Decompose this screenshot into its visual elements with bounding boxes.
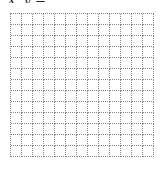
grid-cell bbox=[132, 69, 143, 80]
grid-cell bbox=[66, 102, 77, 113]
grid-cell bbox=[99, 146, 110, 157]
grid-cell bbox=[88, 91, 99, 102]
grid-cell bbox=[88, 36, 99, 47]
grid-cell bbox=[11, 47, 22, 58]
grid-cell bbox=[66, 58, 77, 69]
grid-cell bbox=[132, 80, 143, 91]
grid-cell bbox=[33, 58, 44, 69]
grid-cell bbox=[110, 113, 121, 124]
grid-cell bbox=[77, 124, 88, 135]
grid-cell bbox=[143, 69, 154, 80]
grid-cell bbox=[143, 25, 154, 36]
grid-cell bbox=[33, 14, 44, 25]
grid-cell bbox=[110, 135, 121, 146]
grid-cell bbox=[121, 69, 132, 80]
grid-cell bbox=[121, 14, 132, 25]
grid-cell bbox=[55, 47, 66, 58]
grid-cell bbox=[99, 47, 110, 58]
grid-cell bbox=[77, 36, 88, 47]
grid-cell bbox=[11, 146, 22, 157]
grid-cell bbox=[132, 146, 143, 157]
grid-cell bbox=[55, 80, 66, 91]
grid-cell bbox=[44, 146, 55, 157]
grid-cell bbox=[88, 113, 99, 124]
grid-cell bbox=[110, 91, 121, 102]
grid-cell bbox=[33, 102, 44, 113]
grid-cell bbox=[110, 58, 121, 69]
grid-cell bbox=[143, 14, 154, 25]
grid-cell bbox=[22, 113, 33, 124]
grid-cell bbox=[88, 69, 99, 80]
grid-cell bbox=[143, 47, 154, 58]
grid-cell bbox=[55, 58, 66, 69]
grid-cell bbox=[33, 91, 44, 102]
grid-cell bbox=[33, 36, 44, 47]
grid-cell bbox=[88, 47, 99, 58]
grid-cell bbox=[33, 124, 44, 135]
grid-cell bbox=[55, 25, 66, 36]
grid-cell bbox=[66, 124, 77, 135]
grid-cell bbox=[22, 124, 33, 135]
grid-cell bbox=[66, 25, 77, 36]
grid-cell bbox=[77, 135, 88, 146]
grid-cell bbox=[121, 80, 132, 91]
grid-cell bbox=[44, 47, 55, 58]
grid-cell bbox=[132, 14, 143, 25]
grid-cell bbox=[99, 14, 110, 25]
graph-paper-grid bbox=[10, 13, 154, 157]
grid-cell bbox=[66, 80, 77, 91]
grid-cell bbox=[143, 135, 154, 146]
grid-cell bbox=[121, 58, 132, 69]
grid-cell bbox=[66, 47, 77, 58]
grid-cell bbox=[44, 25, 55, 36]
grid-cell bbox=[55, 146, 66, 157]
grid-cell bbox=[77, 80, 88, 91]
grid-cell bbox=[66, 146, 77, 157]
grid-cell bbox=[66, 135, 77, 146]
grid-cell bbox=[121, 135, 132, 146]
grid-cell bbox=[121, 91, 132, 102]
grid-cell bbox=[33, 47, 44, 58]
grid-cell bbox=[110, 69, 121, 80]
grid-cell bbox=[88, 146, 99, 157]
grid-cell bbox=[143, 36, 154, 47]
grid-cell bbox=[11, 14, 22, 25]
grid-cell bbox=[44, 102, 55, 113]
grid-cell bbox=[99, 80, 110, 91]
grid-cell bbox=[22, 146, 33, 157]
grid-cell bbox=[77, 113, 88, 124]
grid-cell bbox=[44, 36, 55, 47]
grid-cell bbox=[132, 102, 143, 113]
grid-cell bbox=[11, 36, 22, 47]
grid-cell bbox=[22, 14, 33, 25]
grid-cell bbox=[143, 58, 154, 69]
grid-cell bbox=[22, 135, 33, 146]
grid-cell bbox=[11, 113, 22, 124]
grid-cell bbox=[11, 124, 22, 135]
grid-cell bbox=[110, 25, 121, 36]
grid-cell bbox=[66, 14, 77, 25]
grid-cell bbox=[143, 146, 154, 157]
grid-cell bbox=[22, 36, 33, 47]
grid-cell bbox=[99, 113, 110, 124]
grid-cell bbox=[44, 14, 55, 25]
grid-cell bbox=[88, 102, 99, 113]
grid-cell bbox=[66, 69, 77, 80]
grid-cell bbox=[88, 135, 99, 146]
grid-cell bbox=[22, 47, 33, 58]
grid-cell bbox=[99, 36, 110, 47]
clipped-equation-label: x, y = ___ bbox=[8, 0, 70, 3]
grid-cell bbox=[99, 58, 110, 69]
grid-cell bbox=[77, 69, 88, 80]
grid-cell bbox=[121, 36, 132, 47]
grid-cell bbox=[121, 25, 132, 36]
grid-cell bbox=[88, 25, 99, 36]
grid-cell bbox=[44, 80, 55, 91]
grid-cell bbox=[11, 102, 22, 113]
grid-cell bbox=[99, 25, 110, 36]
grid-cell bbox=[121, 113, 132, 124]
grid-cell bbox=[99, 69, 110, 80]
grid-cell bbox=[66, 91, 77, 102]
grid-cell bbox=[22, 69, 33, 80]
grid-cell bbox=[88, 58, 99, 69]
